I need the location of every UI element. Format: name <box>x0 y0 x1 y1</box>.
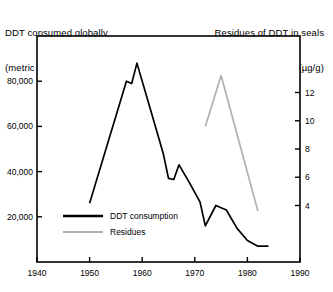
left-tick-label: 80,000 <box>7 76 33 86</box>
legend-label-residues: Residues <box>110 227 145 237</box>
chart-plot: 20,00040,00060,00080,000 4681012 1940195… <box>0 0 333 292</box>
left-tick-label: 60,000 <box>7 121 33 131</box>
right-tick-label: 8 <box>305 144 310 154</box>
right-axis-tick-labels: 4681012 <box>305 88 315 211</box>
chart-figure: DDT consumed globally (metric tons) Resi… <box>0 0 333 292</box>
x-tick-label: 1940 <box>28 268 47 278</box>
x-tick-label: 1950 <box>80 268 99 278</box>
legend-label-ddt-consumption: DDT consumption <box>110 211 178 221</box>
right-tick-label: 12 <box>305 88 315 98</box>
x-tick-label: 1990 <box>291 268 310 278</box>
left-tick-label: 40,000 <box>7 167 33 177</box>
right-tick-label: 6 <box>305 172 310 182</box>
x-tick-label: 1970 <box>185 268 204 278</box>
right-tick-label: 4 <box>305 201 310 211</box>
x-tick-label: 1960 <box>133 268 152 278</box>
right-tick-label: 10 <box>305 116 315 126</box>
plot-background <box>37 36 300 262</box>
left-tick-label: 20,000 <box>7 212 33 222</box>
left-axis-tick-labels: 20,00040,00060,00080,000 <box>7 76 33 222</box>
x-axis-tick-labels: 194019501960197019801990 <box>28 268 310 278</box>
x-tick-label: 1980 <box>238 268 257 278</box>
